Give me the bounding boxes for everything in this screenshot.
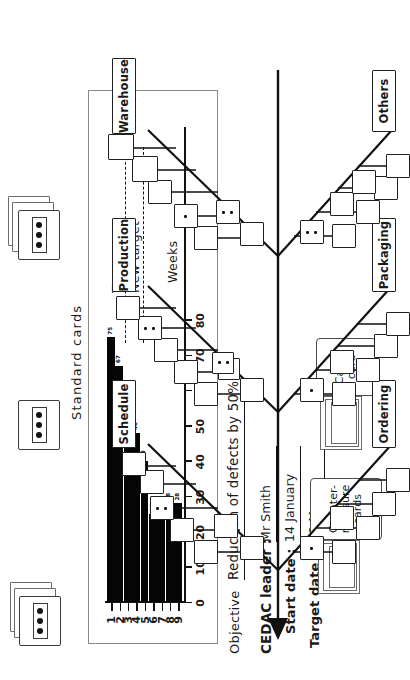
fishbone-card[interactable] [374, 176, 398, 200]
card-dot [164, 507, 167, 510]
fishbone-card[interactable] [194, 226, 218, 250]
fishbone-card[interactable] [374, 334, 398, 358]
chart-bar-value-label: 67 [115, 353, 121, 365]
standard-card[interactable] [19, 596, 61, 646]
fishbone-card[interactable] [332, 224, 356, 248]
card-dot [36, 432, 42, 438]
chart-x-tick [153, 603, 154, 611]
fishbone-card[interactable] [356, 358, 380, 382]
fishbone-card[interactable] [150, 496, 174, 520]
chart-y-tick-label: 0 [194, 592, 207, 614]
fishbone-card[interactable] [330, 192, 354, 216]
chart-y-tick [185, 390, 192, 391]
fishbone-card[interactable] [170, 518, 194, 542]
fishbone-card[interactable] [216, 200, 240, 224]
fishbone-card[interactable] [116, 296, 140, 320]
fishbone-card[interactable] [194, 382, 218, 406]
standard-cards-group: Standard cards [0, 0, 86, 680]
standard-card-stack-3[interactable] [8, 196, 66, 260]
category-label: Warehouse [117, 59, 131, 133]
standard-cards-label: Standard cards [70, 305, 83, 420]
fishbone-card[interactable] [330, 506, 354, 530]
chart-bar-value-label: 75 [107, 325, 113, 337]
chart-bar-value-label: 28 [174, 491, 180, 503]
fishbone-card[interactable] [138, 316, 162, 340]
chart-y-tick-label: 80 [194, 310, 207, 332]
fishbone-card[interactable] [240, 378, 264, 402]
card-dot [314, 231, 317, 234]
fishbone-card[interactable] [108, 134, 134, 160]
card-dot [36, 422, 42, 428]
fishbone-card[interactable] [300, 536, 324, 560]
card-sheet [331, 402, 357, 444]
fishbone-category-production[interactable]: Production [112, 218, 136, 292]
chart-y-tick [185, 355, 192, 356]
chart-y-tick-label: 30 [194, 486, 207, 508]
fishbone-category-warehouse[interactable]: Warehouse [112, 58, 136, 134]
fishbone-card[interactable] [212, 352, 234, 374]
standard-card[interactable] [18, 210, 60, 260]
fishbone-card[interactable] [174, 204, 198, 228]
fishbone-card[interactable] [122, 452, 146, 476]
baseline-extension [184, 147, 185, 343]
chart-y-tick [185, 425, 192, 426]
chart-y-tick [185, 460, 192, 461]
fishbone-card[interactable] [356, 516, 380, 540]
chart-y-tick-label: 40 [194, 451, 207, 473]
card-dot [36, 232, 42, 238]
fishbone-card[interactable] [240, 222, 264, 246]
fishbone-card[interactable] [386, 312, 410, 336]
fishbone-card[interactable] [332, 540, 356, 564]
fishbone-card[interactable] [300, 220, 324, 244]
card-dot [36, 222, 42, 228]
fishbone-card[interactable] [330, 350, 354, 374]
card-dot [222, 211, 225, 214]
fishbone-card[interactable] [132, 156, 158, 182]
category-label: Production [117, 219, 131, 292]
chart-x-tick [162, 603, 163, 611]
fishbone-card[interactable] [332, 382, 356, 406]
fishbone-category-packaging[interactable]: Packaging [372, 218, 396, 292]
chart-y-tick [185, 566, 192, 567]
chart-y-tick [185, 496, 192, 497]
chart-y-tick [185, 319, 192, 320]
start-date-value: 14 January [284, 446, 301, 542]
fishbone-card[interactable] [214, 514, 238, 538]
fishbone-card[interactable] [174, 360, 198, 384]
fishbone-card[interactable] [194, 540, 218, 564]
category-label: Ordering [377, 384, 391, 443]
chart-x-axis-label: Weeks [165, 241, 180, 283]
chart-y-tick [185, 602, 192, 603]
card-dot [37, 608, 43, 614]
fishbone-card[interactable] [386, 468, 410, 492]
standard-card-stack-1[interactable] [10, 582, 66, 646]
standard-card[interactable] [18, 400, 60, 450]
fishbone-card[interactable] [154, 338, 178, 362]
fishbone-card[interactable] [300, 378, 324, 402]
chart-x-tick [128, 603, 129, 611]
chart-x-tick [120, 603, 121, 611]
card-dot [310, 389, 313, 392]
fishbone-card[interactable] [352, 170, 376, 194]
fishbone-category-ordering[interactable]: Ordering [372, 380, 396, 448]
card-dot [218, 361, 221, 364]
card-dot [230, 211, 233, 214]
standard-card-stack-2[interactable] [10, 388, 66, 452]
chart-x-tick [178, 603, 179, 611]
category-label: Packaging [377, 221, 391, 290]
chart-x-tick [111, 603, 112, 611]
card-dot [156, 507, 159, 510]
fishbone-category-others[interactable]: Others [372, 70, 396, 132]
fishbone-card[interactable] [372, 492, 396, 516]
fishbone-category-schedule[interactable]: Schedule [112, 380, 136, 448]
objective-label: Objective [228, 591, 241, 654]
chart-y-tick-label: 50 [194, 416, 207, 438]
fishbone-card[interactable] [356, 200, 380, 224]
chart-x-tick [136, 603, 137, 611]
chart-x-tick [145, 603, 146, 611]
fishbone-card[interactable] [386, 154, 410, 178]
chart-x-tick [170, 603, 171, 611]
card-dot [226, 361, 229, 364]
fishbone-card[interactable] [148, 180, 172, 204]
fishbone-card[interactable] [240, 536, 264, 560]
